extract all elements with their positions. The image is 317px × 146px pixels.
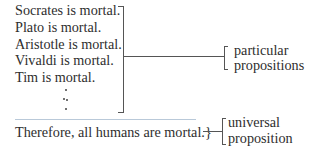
conclusion-brace: } (205, 124, 212, 140)
premise-plato: Plato is mortal. (15, 19, 101, 35)
conclusion-sentence: Therefore, all humans are mortal. (15, 124, 205, 140)
particular-label-line2: propositions (234, 57, 304, 73)
universal-connector-line (203, 131, 222, 132)
premise-aristotle: Aristotle is mortal. (15, 36, 122, 52)
conclusion-separator (15, 119, 196, 120)
universal-label-line1: universal (228, 114, 280, 130)
particular-label-line1: particular (234, 42, 288, 58)
particular-connector-line (124, 56, 224, 57)
universal-label-line2: proposition (228, 130, 293, 146)
premise-tim: Tim is mortal. (15, 69, 95, 85)
premise-vivaldi: Vivaldi is mortal. (15, 52, 114, 68)
conclusion-text: Therefore, all humans are mortal.} (15, 124, 212, 140)
premise-socrates: Socrates is mortal. (15, 2, 120, 18)
